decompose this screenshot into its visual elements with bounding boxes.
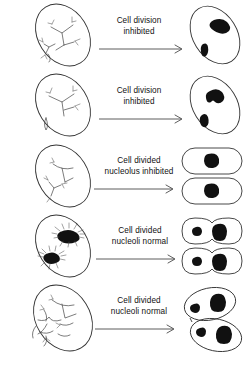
row-2-arrow-icon bbox=[97, 112, 185, 126]
daughter-cell-group-row-5 bbox=[176, 280, 249, 360]
row-1-label: Cell division inhibited bbox=[95, 16, 183, 37]
cell-membrane bbox=[22, 274, 105, 362]
nucleolus-large bbox=[210, 294, 226, 312]
diagram-row-1: Cell division inhibited bbox=[0, 0, 249, 70]
nucleolus-large bbox=[206, 89, 224, 103]
row-1-arrow-icon bbox=[97, 42, 185, 56]
diagram-row-2: Cell division inhibited bbox=[0, 70, 249, 140]
nucleolus-large bbox=[204, 154, 219, 169]
starburst-cluster-lower bbox=[38, 246, 66, 269]
daughter-cell-group-row-4 bbox=[178, 210, 249, 282]
diagram-row-4: Cell divided nucleoli normal bbox=[0, 210, 249, 280]
cell-division-diagram: Cell division inhibited bbox=[0, 0, 249, 365]
nucleolus-large bbox=[212, 224, 227, 241]
nucleolus-small bbox=[190, 303, 200, 313]
nucleolus-large bbox=[210, 19, 231, 34]
cell-membrane bbox=[24, 64, 101, 146]
nucleolus-large bbox=[204, 184, 219, 199]
chromosome-threads bbox=[45, 86, 81, 130]
nucleolus-small bbox=[196, 327, 206, 337]
cell-membrane bbox=[180, 67, 249, 143]
chromosome-threads bbox=[44, 158, 73, 202]
nucleolus-large bbox=[212, 254, 227, 271]
daughter-cell-group-row-3 bbox=[178, 140, 249, 212]
parent-cell-row-5 bbox=[16, 280, 111, 360]
row-5-arrow-icon bbox=[93, 322, 181, 336]
daughter-cell-group-row-2 bbox=[182, 70, 249, 140]
nucleolus-small bbox=[201, 43, 209, 56]
nucleolus-small bbox=[192, 257, 202, 266]
nucleolus-small bbox=[200, 114, 209, 127]
row-4-arrow-icon bbox=[94, 252, 182, 266]
diagram-row-5: Cell divided nucleoli normal bbox=[0, 280, 249, 365]
nucleolus-large bbox=[216, 326, 232, 344]
row-3-arrow-icon bbox=[92, 182, 180, 196]
row-2-label: Cell division inhibited bbox=[95, 86, 183, 107]
diagram-row-3: Cell divided nucleolus inhibited bbox=[0, 140, 249, 210]
chromosome-threads bbox=[39, 17, 80, 62]
cell-bridge bbox=[190, 318, 192, 322]
row-3-label: Cell divided nucleolus inhibited bbox=[88, 156, 190, 177]
cell-membrane bbox=[180, 0, 249, 73]
chromosome-threads bbox=[32, 295, 76, 346]
row-4-label: Cell divided nucleoli normal bbox=[92, 226, 188, 247]
cell-membrane bbox=[24, 205, 101, 287]
row-5-label: Cell divided nucleoli normal bbox=[90, 296, 188, 317]
daughter-cell-group-row-1 bbox=[182, 0, 249, 70]
nucleolus-small bbox=[192, 227, 202, 236]
